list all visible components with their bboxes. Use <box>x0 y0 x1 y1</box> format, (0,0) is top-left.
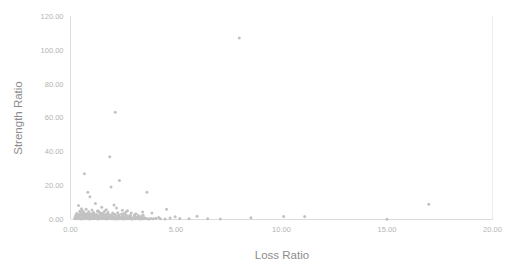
data-point <box>94 202 97 205</box>
data-point <box>83 172 86 175</box>
x-tick-labels: 0.005.0010.0015.0020.00 <box>63 225 502 234</box>
data-point <box>117 214 120 217</box>
data-point <box>142 214 145 217</box>
data-point <box>118 179 121 182</box>
data-point <box>154 217 157 220</box>
data-point <box>178 217 181 220</box>
data-point <box>145 191 148 194</box>
data-point <box>106 212 109 215</box>
data-point <box>303 215 306 218</box>
data-point <box>238 37 241 40</box>
x-axis-title: Loss Ratio <box>255 249 309 261</box>
data-point <box>174 215 177 218</box>
data-point <box>81 213 84 216</box>
data-point <box>85 208 88 211</box>
data-point <box>81 209 84 212</box>
x-tick-label: 20.00 <box>483 225 502 234</box>
y-tick-labels: 0.0020.0040.0060.0080.00100.00120.00 <box>41 12 64 225</box>
data-point <box>88 195 91 198</box>
data-point-group <box>73 37 430 221</box>
data-point <box>206 217 209 220</box>
data-point <box>125 210 128 213</box>
data-point <box>157 216 160 219</box>
data-point <box>114 111 117 114</box>
data-point <box>103 214 106 217</box>
data-point <box>112 203 115 206</box>
data-point <box>110 185 113 188</box>
data-point <box>77 204 80 207</box>
data-point <box>133 213 136 216</box>
x-tick-label: 0.00 <box>63 225 78 234</box>
data-point <box>152 217 155 220</box>
y-axis-title: Strength Ratio <box>12 81 24 155</box>
y-tick-label: 40.00 <box>45 147 64 156</box>
data-point <box>141 211 144 214</box>
data-point <box>84 214 87 217</box>
data-point <box>94 214 97 217</box>
data-point <box>219 217 222 220</box>
data-point <box>121 209 124 212</box>
data-point <box>164 217 167 220</box>
data-point <box>165 208 168 211</box>
data-point <box>86 191 89 194</box>
data-point <box>150 212 153 215</box>
data-point <box>113 213 116 216</box>
data-point <box>124 213 127 216</box>
data-point <box>78 215 81 218</box>
data-point <box>427 203 430 206</box>
data-point <box>169 216 172 219</box>
x-tick-label: 5.00 <box>169 225 184 234</box>
x-tick-label: 10.00 <box>272 225 291 234</box>
y-tick-label: 60.00 <box>45 113 64 122</box>
x-tick-label: 15.00 <box>378 225 397 234</box>
data-point <box>110 213 113 216</box>
data-point <box>129 214 132 217</box>
data-point <box>88 213 91 216</box>
data-point <box>249 216 252 219</box>
data-point <box>99 212 102 215</box>
data-point <box>188 217 191 220</box>
data-point <box>100 206 103 209</box>
y-tick-label: 20.00 <box>45 181 64 190</box>
data-point <box>115 206 118 209</box>
y-tick-label: 120.00 <box>41 12 64 21</box>
data-point <box>282 215 285 218</box>
data-point <box>96 210 99 213</box>
chart-svg: 0.0020.0040.0060.0080.00100.00120.00 0.0… <box>0 0 517 275</box>
data-point <box>196 215 199 218</box>
y-tick-label: 80.00 <box>45 80 64 89</box>
data-point <box>91 212 94 215</box>
data-point <box>108 155 111 158</box>
y-tick-label: 0.00 <box>49 215 64 224</box>
data-point <box>386 218 389 221</box>
scatter-chart: 0.0020.0040.0060.0080.00100.00120.00 0.0… <box>0 0 517 275</box>
data-point <box>120 212 123 215</box>
data-point <box>149 217 152 220</box>
data-point <box>137 214 140 217</box>
y-tick-label: 100.00 <box>41 46 64 55</box>
data-point <box>105 208 108 211</box>
